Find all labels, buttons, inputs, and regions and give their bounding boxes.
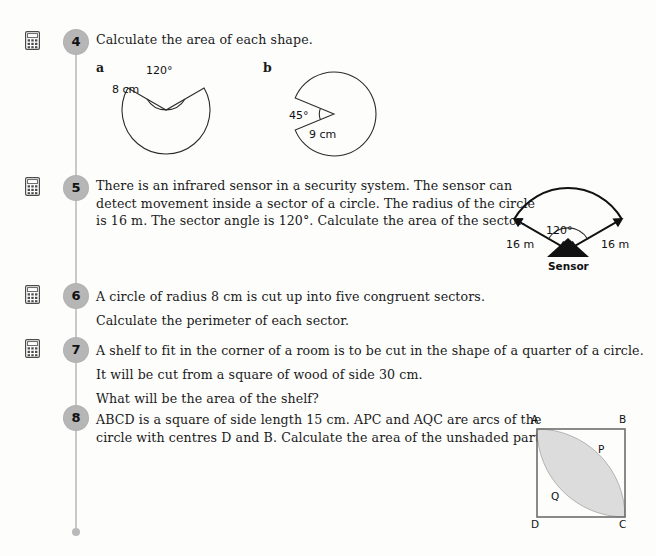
worksheet-page: 4 Calculate the area of each shape. a 12… (0, 0, 656, 556)
question-5-line-3: is 16 m. The sector angle is 120°. Calcu… (96, 212, 535, 230)
question-7-line-1: A shelf to fit in the corner of a room i… (96, 339, 644, 363)
shape-b-angle-label: 45° (289, 109, 309, 122)
question-number-4: 4 (63, 29, 89, 55)
square-vertex-label-a: A (531, 413, 538, 425)
question-7-line-2: It will be cut from a square of wood of … (96, 363, 644, 387)
calculator-icon (25, 31, 40, 50)
spine-end-dot (72, 528, 80, 536)
calculator-icon (25, 339, 40, 358)
question-number-6: 6 (63, 283, 89, 309)
question-6-line-1: A circle of radius 8 cm is cut up into f… (96, 285, 485, 309)
calculator-icon (25, 285, 40, 304)
square-arc-label-p: P (598, 443, 604, 455)
question-5-line-1: There is an infrared sensor in a securit… (96, 177, 535, 195)
sensor-angle-label: 120° (546, 224, 573, 237)
shape-a-angle-label: 120° (146, 64, 173, 77)
question-5-text: There is an infrared sensor in a securit… (96, 177, 535, 230)
question-7-line-3: What will be the area of the shelf? (96, 387, 644, 411)
calculator-icon (25, 177, 40, 196)
shape-b-radius-label: 9 cm (309, 128, 336, 141)
question-8-text: ABCD is a square of side length 15 cm. A… (96, 411, 544, 446)
part-label-b: b (263, 60, 272, 75)
square-abcd-diagram (536, 428, 628, 520)
sensor-label: Sensor (548, 260, 589, 272)
question-6-text: A circle of radius 8 cm is cut up into f… (96, 285, 485, 333)
square-arc-label-q: Q (551, 490, 559, 502)
question-4-line-1: Calculate the area of each shape. (96, 31, 313, 49)
sensor-right-radius-label: 16 m (601, 238, 629, 251)
shape-a-radius-label: 8 cm (112, 83, 139, 96)
question-number-8: 8 (63, 405, 89, 431)
question-7-text: A shelf to fit in the corner of a room i… (96, 339, 644, 411)
question-number-5: 5 (63, 175, 89, 201)
question-8-line-1: ABCD is a square of side length 15 cm. A… (96, 411, 544, 429)
square-vertex-label-c: C (619, 518, 626, 530)
part-label-a: a (96, 60, 104, 75)
sensor-left-radius-label: 16 m (506, 238, 534, 251)
question-5-line-2: detect movement inside a sector of a cir… (96, 195, 535, 213)
question-4-text: Calculate the area of each shape. (96, 31, 313, 49)
question-number-7: 7 (63, 337, 89, 363)
question-8-line-2: circle with centres D and B. Calculate t… (96, 429, 544, 447)
square-vertex-label-b: B (619, 413, 626, 425)
question-6-line-2: Calculate the perimeter of each sector. (96, 309, 485, 333)
square-vertex-label-d: D (531, 518, 539, 530)
